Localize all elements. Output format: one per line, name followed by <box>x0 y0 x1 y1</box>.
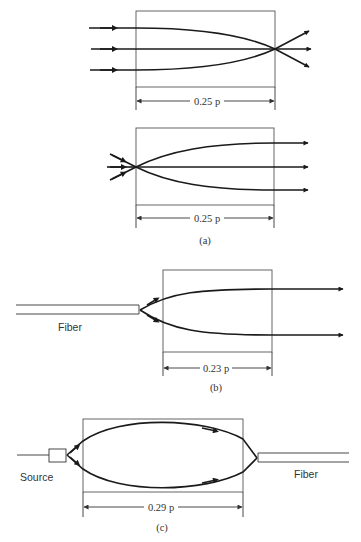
panel-b: Fiber 0.23 p (b) <box>16 270 343 394</box>
ray-top <box>89 28 275 49</box>
ray-exit-up <box>275 31 309 49</box>
arrow-icon <box>112 155 124 161</box>
fiber-label: Fiber <box>58 321 82 333</box>
panel-a-top: 0.25 p <box>89 11 311 110</box>
ray-bottom <box>90 49 275 70</box>
ray-out-top <box>136 143 308 167</box>
grin-lens-diagram: 0.25 p 0.25 p (a) Fiber <box>0 0 361 542</box>
panel-c: Source Fiber 0.29 p (c) <box>17 419 349 534</box>
ray-upper <box>140 289 343 310</box>
source-label: Source <box>20 471 53 483</box>
caption-c: (c) <box>156 522 168 534</box>
caption-b: (b) <box>210 382 223 394</box>
ray-lower <box>67 455 257 488</box>
arrow-icon <box>112 173 124 179</box>
caption-a: (a) <box>199 235 211 247</box>
arrow-icon <box>70 457 78 464</box>
arrow-icon <box>70 446 78 453</box>
dimension-label: 0.23 p <box>203 363 229 374</box>
dimension-label: 0.29 p <box>148 502 174 513</box>
panel-a-bottom: 0.25 p (a) <box>107 128 308 247</box>
dimension-label: 0.25 p <box>194 96 220 107</box>
dimension-label: 0.25 p <box>194 213 220 224</box>
grin-lens-box <box>163 270 272 352</box>
ray-exit-down <box>275 49 309 67</box>
ray-out-bottom <box>136 167 308 190</box>
ray-upper <box>67 422 257 458</box>
source-box <box>49 449 66 462</box>
ray-lower <box>140 310 343 335</box>
fiber-label: Fiber <box>294 468 318 480</box>
